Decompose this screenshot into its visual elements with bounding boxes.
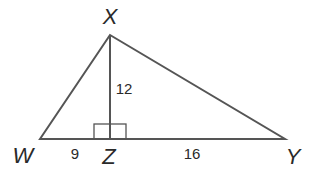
vertex-label-z: Z bbox=[101, 144, 117, 169]
triangle-diagram: X W Z Y 9 16 12 bbox=[0, 0, 318, 176]
length-wz: 9 bbox=[71, 145, 79, 162]
vertex-label-y: Y bbox=[286, 144, 302, 169]
length-xz: 12 bbox=[116, 80, 133, 97]
vertex-label-x: X bbox=[102, 4, 119, 29]
triangle-wxy bbox=[40, 35, 285, 139]
length-zy: 16 bbox=[184, 145, 201, 162]
vertex-label-w: W bbox=[13, 143, 36, 168]
